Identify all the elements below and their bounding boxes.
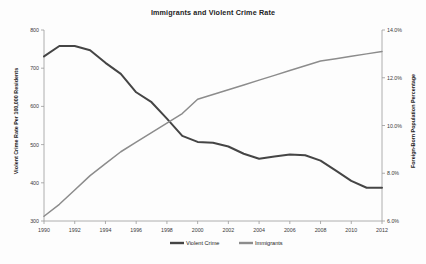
svg-text:300: 300: [30, 218, 39, 224]
svg-text:1992: 1992: [69, 227, 81, 233]
svg-text:700: 700: [30, 65, 39, 71]
svg-text:6.0%: 6.0%: [387, 218, 399, 224]
svg-text:Violent Crime: Violent Crime: [186, 240, 219, 246]
svg-text:2004: 2004: [253, 227, 265, 233]
x-axis-ticks: 1990199219941996199820002002200420062008…: [38, 221, 388, 233]
left-axis-ticks: 300400500600700800: [30, 27, 44, 224]
svg-text:400: 400: [30, 180, 39, 186]
svg-text:500: 500: [30, 142, 39, 148]
svg-text:2012: 2012: [376, 227, 388, 233]
svg-text:1990: 1990: [38, 227, 50, 233]
svg-text:2000: 2000: [192, 227, 204, 233]
chart-figure: Immigrants and Violent Crime Rate Violen…: [0, 0, 426, 264]
data-series-lines: [44, 46, 382, 216]
right-axis-ticks: 6.0%8.0%10.0%12.0%14.0%: [382, 27, 402, 224]
svg-text:2006: 2006: [284, 227, 296, 233]
chart-legend: Violent CrimeImmigrants: [170, 240, 283, 246]
svg-text:600: 600: [30, 103, 39, 109]
svg-text:8.0%: 8.0%: [387, 170, 399, 176]
svg-text:2008: 2008: [315, 227, 327, 233]
svg-text:14.0%: 14.0%: [387, 27, 402, 33]
svg-text:2002: 2002: [222, 227, 234, 233]
svg-text:10.0%: 10.0%: [387, 123, 402, 129]
svg-text:12.0%: 12.0%: [387, 75, 402, 81]
svg-text:1994: 1994: [100, 227, 112, 233]
chart-plot-area: 300400500600700800 6.0%8.0%10.0%12.0%14.…: [0, 0, 426, 264]
svg-text:1996: 1996: [130, 227, 142, 233]
svg-text:1998: 1998: [161, 227, 173, 233]
svg-text:800: 800: [30, 27, 39, 33]
svg-text:Immigrants: Immigrants: [255, 240, 283, 246]
svg-text:2010: 2010: [345, 227, 357, 233]
